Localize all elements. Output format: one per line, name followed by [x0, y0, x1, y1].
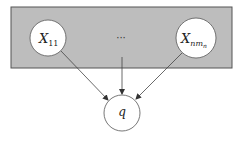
- node-q-label: q: [118, 105, 126, 119]
- node-x11: X11: [30, 20, 66, 56]
- node-xn-sub: nm: [190, 39, 203, 48]
- node-q: q: [104, 95, 140, 131]
- node-xn-subsub: n: [203, 42, 207, 49]
- ellipsis: ···: [116, 32, 126, 43]
- graphical-model-diagram: X11 ··· Xnmn q: [0, 0, 245, 142]
- node-x11-sub: 11: [48, 39, 58, 48]
- node-xn: Xnmn: [176, 18, 216, 58]
